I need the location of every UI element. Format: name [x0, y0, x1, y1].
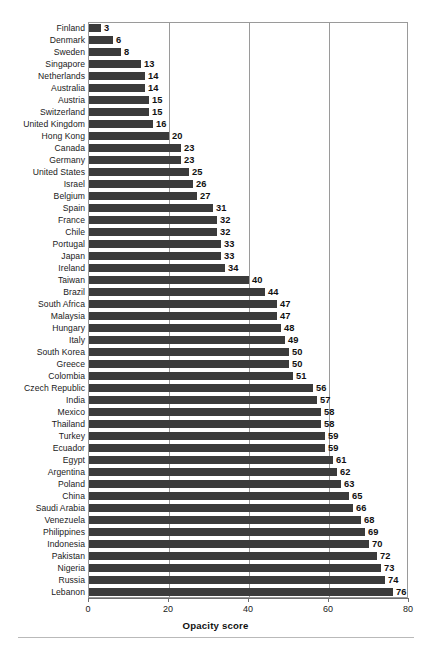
bar [89, 300, 277, 309]
category-label: Hungary [52, 322, 85, 334]
bar-row: Greece50 [0, 358, 431, 370]
bar [89, 312, 277, 321]
bar-row: Netherlands14 [0, 70, 431, 82]
category-label: Netherlands [38, 70, 85, 82]
bar-value-label: 32 [220, 226, 230, 238]
bar-value-label: 47 [280, 298, 290, 310]
bar-row: Canada23 [0, 142, 431, 154]
bar-rows: Finland3Denmark6Sweden8Singapore13Nether… [0, 22, 431, 598]
bar [89, 480, 341, 489]
bar-value-label: 70 [372, 538, 382, 550]
category-label: China [62, 490, 85, 502]
bar-value-label: 66 [356, 502, 366, 514]
bar-value-label: 50 [292, 358, 302, 370]
bar-value-label: 14 [148, 82, 158, 94]
bar-row: Hong Kong20 [0, 130, 431, 142]
bar-row: United Kingdom16 [0, 118, 431, 130]
bar-value-label: 62 [340, 466, 350, 478]
category-label: Italy [69, 334, 85, 346]
bar-value-label: 61 [336, 454, 346, 466]
bar [89, 240, 221, 249]
category-label: Russia [58, 574, 85, 586]
bar [89, 228, 217, 237]
bar [89, 216, 217, 225]
category-label: Austria [58, 94, 85, 106]
category-label: Spain [63, 202, 85, 214]
category-label: Argentina [48, 466, 85, 478]
bar-value-label: 15 [152, 106, 162, 118]
bar [89, 420, 321, 429]
bar-value-label: 32 [220, 214, 230, 226]
bar [89, 132, 169, 141]
bar [89, 180, 193, 189]
bar-row: Singapore13 [0, 58, 431, 70]
bar [89, 384, 313, 393]
bar [89, 204, 213, 213]
category-label: Colombia [48, 370, 85, 382]
category-label: Belgium [54, 190, 85, 202]
bar-row: Brazil44 [0, 286, 431, 298]
bar-value-label: 69 [368, 526, 378, 538]
bar-row: Spain31 [0, 202, 431, 214]
bar-value-label: 74 [388, 574, 398, 586]
category-label: United Kingdom [23, 118, 85, 130]
bar-row: Chile32 [0, 226, 431, 238]
category-label: Egypt [63, 454, 85, 466]
category-label: Ireland [58, 262, 85, 274]
bar [89, 552, 377, 561]
bar [89, 576, 385, 585]
bar-value-label: 56 [316, 382, 326, 394]
bar-row: Russia74 [0, 574, 431, 586]
bar [89, 96, 149, 105]
bar [89, 372, 293, 381]
bar [89, 48, 121, 57]
bar-row: China65 [0, 490, 431, 502]
category-label: Israel [64, 178, 85, 190]
bar-value-label: 8 [124, 46, 129, 58]
bar-row: Venezuela68 [0, 514, 431, 526]
bar-value-label: 44 [268, 286, 278, 298]
bar [89, 324, 281, 333]
category-label: Chile [65, 226, 85, 238]
bar-row: United States25 [0, 166, 431, 178]
bar [89, 348, 289, 357]
category-label: Malaysia [51, 310, 85, 322]
bar-row: Austria15 [0, 94, 431, 106]
bar-value-label: 73 [384, 562, 394, 574]
category-label: Lebanon [51, 586, 85, 598]
x-tick-label: 20 [163, 604, 173, 614]
bar [89, 264, 225, 273]
bar-value-label: 40 [252, 274, 262, 286]
bar [89, 528, 365, 537]
bar-row: South Africa47 [0, 298, 431, 310]
category-label: Denmark [50, 34, 85, 46]
x-tick-label: 80 [403, 604, 413, 614]
bar-row: Hungary48 [0, 322, 431, 334]
category-label: United States [33, 166, 85, 178]
bar-value-label: 23 [184, 154, 194, 166]
bar [89, 24, 101, 33]
category-label: Sweden [54, 46, 85, 58]
bar-row: Thailand58 [0, 418, 431, 430]
bar-row: Turkey59 [0, 430, 431, 442]
bar-value-label: 76 [396, 586, 406, 598]
category-label: Portugal [53, 238, 85, 250]
bar-row: Ireland34 [0, 262, 431, 274]
bar-row: Switzerland15 [0, 106, 431, 118]
category-label: Australia [51, 82, 85, 94]
bar-value-label: 27 [200, 190, 210, 202]
bar [89, 336, 285, 345]
bar-row: Egypt61 [0, 454, 431, 466]
bar-value-label: 58 [324, 418, 334, 430]
bar [89, 156, 181, 165]
bar-value-label: 51 [296, 370, 306, 382]
bar-row: Pakistan72 [0, 550, 431, 562]
category-label: France [58, 214, 85, 226]
category-label: Ecuador [53, 442, 85, 454]
bar-row: Denmark6 [0, 34, 431, 46]
bar-row: Australia14 [0, 82, 431, 94]
bar-row: Philippines69 [0, 526, 431, 538]
bar-value-label: 34 [228, 262, 238, 274]
category-label: Philippines [43, 526, 85, 538]
bar-value-label: 16 [156, 118, 166, 130]
